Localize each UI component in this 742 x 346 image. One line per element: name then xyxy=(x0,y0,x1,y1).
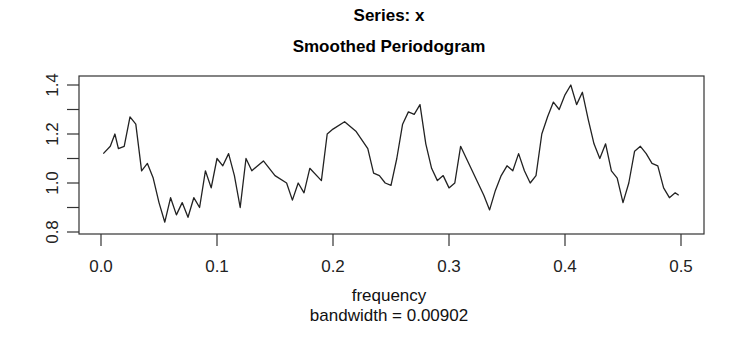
x-tick-label: 0.5 xyxy=(669,257,693,276)
x-tick-label: 0.4 xyxy=(553,257,577,276)
plot-frame xyxy=(79,76,704,234)
y-axis: 0.81.01.21.4 xyxy=(43,73,79,244)
y-tick-label: 0.8 xyxy=(43,220,62,244)
x-tick-label: 0.2 xyxy=(321,257,345,276)
x-axis-label: frequency xyxy=(18,286,742,306)
y-tick-label: 1.2 xyxy=(43,122,62,146)
y-tick-label: 1.4 xyxy=(43,73,62,97)
x-tick-label: 0.3 xyxy=(437,257,461,276)
periodogram-line xyxy=(103,85,678,222)
bandwidth-label: bandwidth = 0.00902 xyxy=(18,306,742,326)
y-tick-label: 1.0 xyxy=(43,171,62,195)
x-tick-label: 0.0 xyxy=(89,257,113,276)
x-tick-label: 0.1 xyxy=(205,257,229,276)
x-axis: 0.00.10.20.30.40.5 xyxy=(89,234,693,276)
